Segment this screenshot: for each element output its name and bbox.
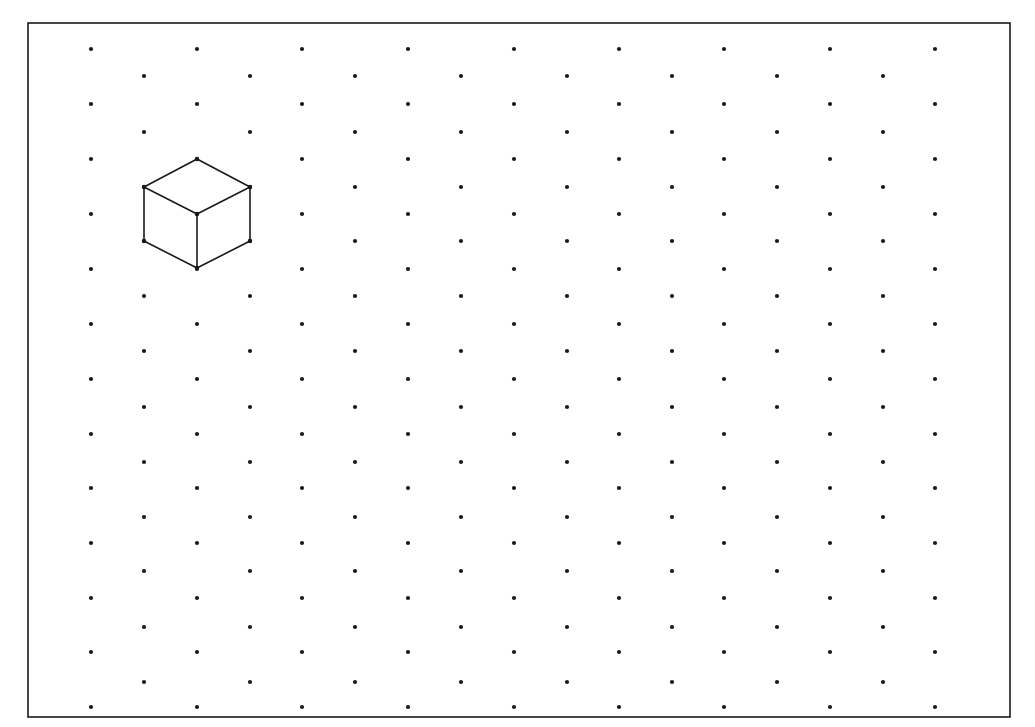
grid-dot — [670, 74, 674, 78]
isometric-dot-paper — [0, 0, 1035, 727]
grid-dot — [775, 239, 779, 243]
grid-dot — [512, 322, 516, 326]
grid-dot — [512, 705, 516, 709]
grid-dot — [775, 680, 779, 684]
grid-dot — [828, 102, 832, 106]
grid-dot — [300, 267, 304, 271]
grid-dot — [722, 377, 726, 381]
grid-dot — [881, 130, 885, 134]
grid-dot — [565, 625, 569, 629]
grid-dot — [195, 486, 199, 490]
grid-dot — [775, 74, 779, 78]
grid-dot — [670, 460, 674, 464]
grid-dot — [195, 596, 199, 600]
grid-dot — [670, 625, 674, 629]
grid-dot — [933, 322, 937, 326]
grid-dot — [406, 432, 410, 436]
grid-dot — [512, 267, 516, 271]
grid-dot — [353, 405, 357, 409]
grid-dot — [565, 569, 569, 573]
grid-dot — [670, 130, 674, 134]
grid-dot — [89, 212, 93, 216]
grid-dot — [933, 650, 937, 654]
grid-dot — [828, 486, 832, 490]
grid-dot — [828, 541, 832, 545]
grid-dot — [512, 432, 516, 436]
grid-dot — [881, 349, 885, 353]
grid-dot — [406, 322, 410, 326]
grid-dot — [881, 515, 885, 519]
grid-dot — [89, 102, 93, 106]
grid-dot — [195, 541, 199, 545]
grid-dot — [828, 212, 832, 216]
grid-dot — [722, 157, 726, 161]
grid-dot — [933, 157, 937, 161]
grid-dot — [89, 377, 93, 381]
grid-dot — [617, 486, 621, 490]
grid-dot — [775, 294, 779, 298]
grid-dot — [406, 541, 410, 545]
grid-dot — [89, 432, 93, 436]
grid-dot — [353, 625, 357, 629]
grid-dot — [300, 47, 304, 51]
grid-dot — [670, 515, 674, 519]
grid-dot — [406, 377, 410, 381]
grid-dot — [565, 294, 569, 298]
grid-dot — [353, 185, 357, 189]
grid-dot — [828, 377, 832, 381]
grid-dot — [300, 157, 304, 161]
cube-vertex-center — [195, 212, 199, 216]
grid-dot — [565, 239, 569, 243]
grid-dot — [195, 102, 199, 106]
grid-dot — [617, 267, 621, 271]
grid-dot — [300, 432, 304, 436]
grid-dot — [565, 185, 569, 189]
grid-dot — [89, 541, 93, 545]
grid-dot — [933, 102, 937, 106]
grid-dot — [142, 349, 146, 353]
grid-dot — [459, 294, 463, 298]
grid-dot — [512, 486, 516, 490]
page-background — [0, 0, 1035, 727]
grid-dot — [353, 239, 357, 243]
grid-dot — [933, 377, 937, 381]
grid-dot — [459, 569, 463, 573]
grid-dot — [406, 102, 410, 106]
grid-dot — [722, 102, 726, 106]
grid-dot — [300, 650, 304, 654]
cube-vertex-top — [195, 157, 199, 161]
grid-dot — [353, 349, 357, 353]
grid-dot — [195, 705, 199, 709]
grid-dot — [300, 541, 304, 545]
grid-dot — [617, 432, 621, 436]
grid-dot — [248, 569, 252, 573]
grid-dot — [459, 239, 463, 243]
grid-dot — [722, 705, 726, 709]
grid-dot — [722, 47, 726, 51]
grid-dot — [881, 294, 885, 298]
grid-dot — [300, 102, 304, 106]
grid-dot — [565, 405, 569, 409]
grid-dot — [722, 432, 726, 436]
grid-dot — [459, 185, 463, 189]
grid-dot — [248, 405, 252, 409]
grid-dot — [142, 294, 146, 298]
grid-dot — [617, 377, 621, 381]
grid-dot — [353, 680, 357, 684]
grid-dot — [933, 212, 937, 216]
grid-dot — [406, 267, 410, 271]
grid-dot — [89, 486, 93, 490]
grid-dot — [881, 680, 885, 684]
grid-dot — [459, 130, 463, 134]
grid-dot — [353, 515, 357, 519]
grid-dot — [459, 74, 463, 78]
grid-dot — [670, 239, 674, 243]
grid-dot — [142, 74, 146, 78]
grid-dot — [300, 705, 304, 709]
grid-dot — [828, 596, 832, 600]
grid-dot — [142, 130, 146, 134]
grid-dot — [828, 157, 832, 161]
grid-dot — [406, 596, 410, 600]
grid-dot — [775, 130, 779, 134]
grid-dot — [565, 349, 569, 353]
